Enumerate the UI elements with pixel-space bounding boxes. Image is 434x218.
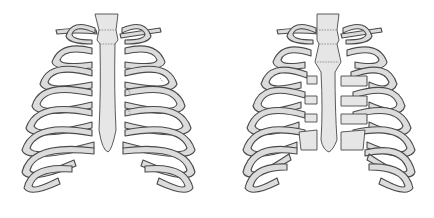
sternum — [315, 14, 341, 152]
ribs-right-side — [122, 24, 195, 192]
ribs-left-side — [243, 24, 317, 192]
ribs-left-side — [22, 24, 95, 192]
ribcage-right-illustration: Rib cage (flail chest, bilateral rib fra… — [217, 0, 434, 218]
sternum — [95, 14, 118, 152]
ribcage-left-svg — [0, 0, 217, 218]
ribs-right-side — [341, 24, 415, 192]
ribcage-right-svg — [217, 0, 434, 218]
ribcage-left-illustration: Rib cage (intact sternum, right-side rib… — [0, 0, 217, 218]
